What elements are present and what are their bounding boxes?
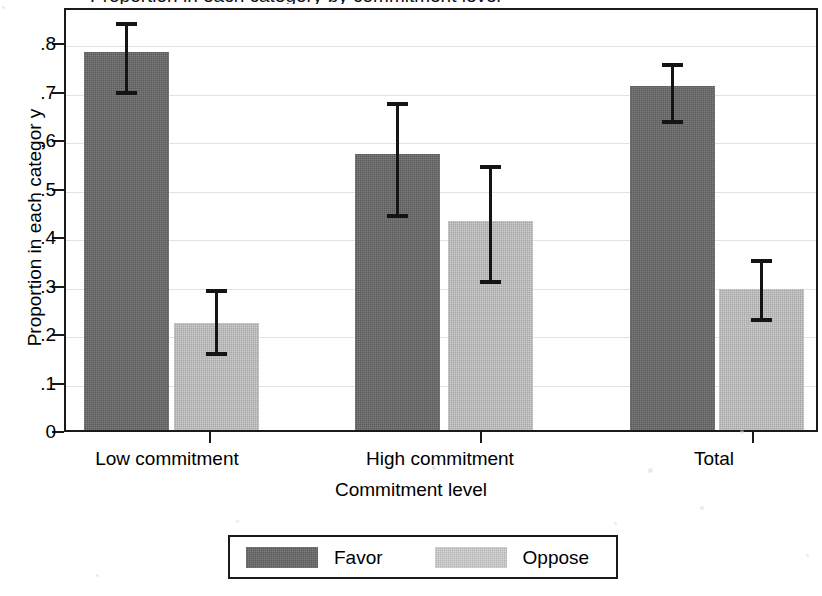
error-bar-stem-favor-2 <box>671 63 674 124</box>
error-bar-cap-lower-oppose-0 <box>206 352 227 356</box>
bar-chart-figure: Proportion in each category by commitmen… <box>0 0 822 596</box>
error-bar-stem-oppose-2 <box>760 259 763 322</box>
y-tick-label: .4 <box>16 228 56 247</box>
error-bar-cap-lower-oppose-1 <box>480 280 501 284</box>
x-tick-label-2: Total <box>604 448 822 470</box>
scan-artifact <box>2 6 5 9</box>
scan-artifact <box>614 522 617 525</box>
error-bar-stem-favor-0 <box>125 22 128 95</box>
x-tick-mark <box>752 432 754 443</box>
gridline <box>66 46 816 47</box>
x-tick-mark <box>209 432 211 443</box>
x-tick-label-0: Low commitment <box>57 448 277 470</box>
y-tick-label: .2 <box>16 325 56 344</box>
y-tick-label: .5 <box>16 180 56 199</box>
error-bar-cap-lower-favor-2 <box>662 120 683 124</box>
legend-label-oppose: Oppose <box>523 548 590 567</box>
chart-title: Proportion in each category by commitmen… <box>90 0 790 4</box>
scan-artifact <box>648 468 653 473</box>
error-bar-stem-oppose-0 <box>215 289 218 357</box>
error-bar-stem-favor-1 <box>396 102 399 218</box>
legend-entry-favor: Favor <box>246 537 383 577</box>
error-bar-cap-upper-oppose-0 <box>206 289 227 293</box>
error-bar-cap-upper-oppose-1 <box>480 165 501 169</box>
chart-legend: Favor Oppose <box>228 535 618 579</box>
error-bar-cap-upper-oppose-2 <box>751 259 772 263</box>
x-axis-title: Commitment level <box>0 480 822 500</box>
x-tick-mark <box>480 432 482 443</box>
scan-artifact <box>236 520 239 523</box>
y-tick-label: 0 <box>16 422 56 441</box>
error-bar-cap-upper-favor-0 <box>116 22 137 26</box>
bar-favor-0 <box>84 52 169 430</box>
x-tick-label-1: High commitment <box>330 448 550 470</box>
error-bar-cap-upper-favor-1 <box>387 102 408 106</box>
error-bar-cap-lower-favor-0 <box>116 91 137 95</box>
legend-entry-oppose: Oppose <box>435 537 590 577</box>
scan-artifact <box>806 554 809 557</box>
scan-artifact <box>432 466 436 470</box>
scan-artifact <box>740 430 744 434</box>
legend-label-favor: Favor <box>334 548 383 567</box>
light-gray-swatch-icon <box>435 547 507 568</box>
dark-gray-swatch-icon <box>246 547 318 568</box>
y-tick-label: .6 <box>16 131 56 150</box>
error-bar-cap-upper-favor-2 <box>662 63 683 67</box>
y-tick-label: .7 <box>16 83 56 102</box>
error-bar-stem-oppose-1 <box>489 165 492 284</box>
error-bar-cap-lower-oppose-2 <box>751 318 772 322</box>
y-tick-label: .3 <box>16 277 56 296</box>
scan-artifact <box>700 506 704 510</box>
y-tick-label: .8 <box>16 34 56 53</box>
y-tick-label: .1 <box>16 374 56 393</box>
error-bar-cap-lower-favor-1 <box>387 214 408 218</box>
scan-artifact <box>96 574 99 577</box>
bar-favor-2 <box>630 86 715 430</box>
plot-area <box>64 8 818 432</box>
